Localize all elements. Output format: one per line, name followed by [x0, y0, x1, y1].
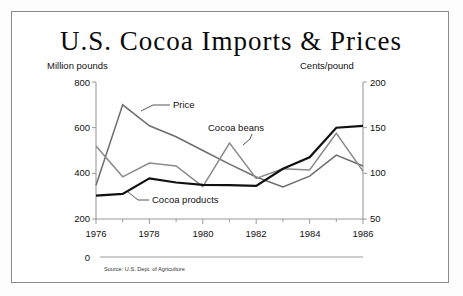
right-tick-label: 200: [370, 77, 386, 88]
right-tick-label: 50: [370, 213, 381, 224]
price-leader-line: [141, 105, 170, 111]
left-tick-label: 800: [74, 77, 90, 88]
right-tick-label: 150: [370, 122, 386, 133]
cocoa-products-leader-line: [128, 192, 149, 200]
zero-label: 0: [85, 252, 90, 263]
right-tick-marks: [363, 82, 367, 219]
series-line-price: [96, 105, 363, 187]
cocoa-beans-leader-line: [243, 134, 252, 145]
left-tick-marks: [92, 82, 96, 219]
chart-frame: U.S. Cocoa Imports & Prices Million poun…: [11, 11, 449, 283]
right-tick-label: 100: [370, 167, 386, 178]
left-tick-label: 200: [74, 213, 90, 224]
series-label-cocoa-beans: Cocoa beans: [208, 122, 264, 133]
x-tick-label: 1976: [85, 228, 106, 239]
x-tick-labels: 1976 1978 1980 1982 1984 1986: [85, 228, 373, 239]
x-tick-label: 1984: [299, 228, 320, 239]
left-tick-labels: 800 600 400 200: [74, 77, 90, 224]
x-tick-marks: [96, 219, 363, 224]
plot-area: 800 600 400 200 200 150 100 50 1976: [12, 12, 450, 284]
x-tick-label: 1980: [192, 228, 213, 239]
right-tick-labels: 200 150 100 50: [370, 77, 386, 224]
x-tick-label: 1982: [245, 228, 266, 239]
chart-svg: 800 600 400 200 200 150 100 50 1976: [12, 12, 450, 284]
series-label-price: Price: [173, 99, 195, 110]
left-tick-label: 400: [74, 167, 90, 178]
series-label-cocoa-products: Cocoa products: [152, 194, 219, 205]
x-tick-label: 1978: [138, 228, 159, 239]
chart-page: U.S. Cocoa Imports & Prices Million poun…: [0, 0, 463, 296]
series-line-cocoa-products: [96, 126, 363, 196]
source-note: Source: U.S. Dept. of Agriculture: [104, 266, 185, 272]
left-tick-label: 600: [74, 122, 90, 133]
x-tick-label: 1986: [352, 228, 373, 239]
